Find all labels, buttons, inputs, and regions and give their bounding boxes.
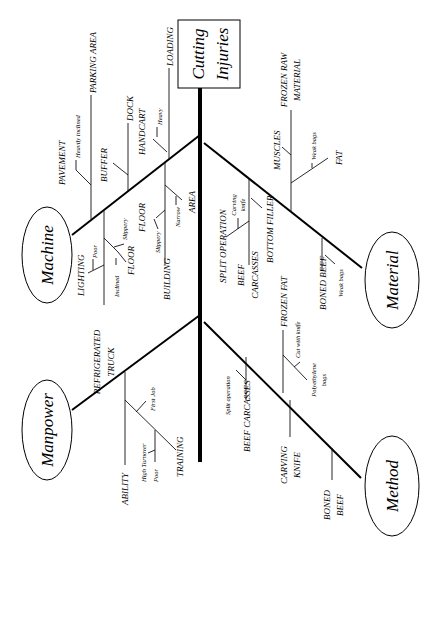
machine-handcart: HANDCART xyxy=(137,108,147,156)
method-boned-beef-2: BEEF xyxy=(335,494,345,516)
method-carving-knife-2: KNIFE xyxy=(292,451,302,479)
machine-building: BUILDING xyxy=(162,258,172,300)
manpower-first-job: First Job xyxy=(149,387,156,412)
material-muscles: MUSCLES xyxy=(272,130,282,171)
material-weak-bags2: Weak bags xyxy=(337,269,344,297)
machine-floor2-line xyxy=(156,210,165,218)
material-bottom-filler: BOTTOM FILLER xyxy=(265,195,275,263)
material-split-line xyxy=(226,221,249,237)
machine-floor1: FLOOR xyxy=(126,245,136,276)
method-cut-knife-tick xyxy=(294,362,300,367)
machine-refrigerated-truck-2: TRUCK xyxy=(106,347,116,377)
machine-pavement-line xyxy=(76,170,91,185)
machine-lighting-line xyxy=(88,265,104,273)
machine-handcart-line xyxy=(153,139,167,152)
manpower-ability: ABILITY xyxy=(120,472,130,506)
fishbone-diagram: CuttingInjuriesMachineManpowerMaterialMe… xyxy=(0,0,426,632)
machine-parking-area: PARKING AREA xyxy=(88,32,98,94)
method-carving-knife-1: CARVING xyxy=(279,446,289,484)
effect-label-line2: Injuries xyxy=(213,27,232,81)
machine-floor2-tick xyxy=(154,219,158,229)
material-frozen-raw-1: FROZEN RAW xyxy=(279,51,289,108)
material-bottom-filler-line xyxy=(251,198,262,208)
machine-area-line xyxy=(165,185,182,200)
machine-pavement: PAVEMENT xyxy=(57,140,67,186)
material-split-operation: SPLIT OPERATION xyxy=(218,208,228,283)
manpower-high-turnover-tick xyxy=(148,450,155,453)
method-beef-carcasses: BEEF CARCASSES xyxy=(242,380,252,452)
method-frozen-fat: FROZEN FAT xyxy=(279,275,289,328)
machine-heavily-inclined: Heavily inclined xyxy=(74,114,81,159)
machine-floor1-end xyxy=(118,252,126,262)
machine-floor1-line xyxy=(104,238,118,252)
machine-heavy: Heavy xyxy=(156,108,163,126)
effect-label-line1: Cutting xyxy=(189,28,208,79)
machine-buffer-line xyxy=(113,163,128,175)
manpower-poor: Poor xyxy=(152,469,159,483)
method-split-operation: Split operation xyxy=(224,376,231,415)
method-polyethylene-2: bags xyxy=(320,373,327,386)
material-carving-1: Carving xyxy=(230,194,237,216)
category-machine-label: Machine xyxy=(38,225,57,286)
method-polyethylene-1: Polyethylene xyxy=(310,363,317,398)
manpower-training: TRAINING xyxy=(175,436,185,477)
method-split-op-tick xyxy=(236,370,246,380)
machine-slippery2: Slippery xyxy=(154,231,161,253)
material-fat: FAT xyxy=(334,149,344,166)
machine-dock: DOCK xyxy=(125,95,135,122)
machine-lighting: LIGHTING xyxy=(76,254,86,297)
manpower-first-job-tick xyxy=(136,401,146,412)
method-boned-beef-1: BONED xyxy=(322,490,332,520)
material-frozen-raw-2: MATERIAL xyxy=(292,59,302,102)
category-method-label: Method xyxy=(383,460,402,513)
machine-refrigerated-truck-1: REFRIGERATED xyxy=(92,329,102,395)
material-muscles-line xyxy=(282,147,291,155)
material-beef-1: BEEF xyxy=(236,264,246,286)
machine-slippery1: Slippery xyxy=(121,218,128,240)
manpower-high-turnover: High Turnover xyxy=(140,443,147,483)
material-weak-bags1: Weak bags xyxy=(310,132,317,160)
material-fat-line xyxy=(291,158,328,183)
machine-narrow: Narrow xyxy=(174,206,181,228)
material-carving-2: knife xyxy=(239,199,246,212)
machine-area: AREA xyxy=(187,191,197,214)
material-boned-beef: BONED BEEF xyxy=(318,255,328,310)
machine-floor2: FLOOR xyxy=(137,202,147,233)
diagram-labels: CuttingInjuriesMachineManpowerMaterialMe… xyxy=(38,26,402,520)
machine-slippery1-tick xyxy=(114,244,124,247)
category-material-label: Material xyxy=(383,250,402,311)
machine-inclined: Inclined xyxy=(113,275,120,298)
material-carcasses-2: CARCASSES xyxy=(250,251,260,299)
machine-poor: Poor xyxy=(91,245,98,259)
category-manpower-label: Manpower xyxy=(38,393,57,468)
method-cut-with-knife: Cut with knife xyxy=(294,321,301,358)
machine-buffer: BUFFER xyxy=(99,148,109,182)
machine-loading: LOADING xyxy=(165,26,175,67)
